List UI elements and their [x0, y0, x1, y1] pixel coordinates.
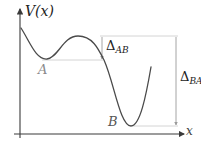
minimum-a-label: A: [38, 63, 47, 76]
delta-ab-label: ΔAB: [106, 37, 129, 53]
y-axis-label: V(x): [25, 4, 54, 18]
x-axis-label: x: [186, 125, 193, 137]
delta-ba-subscript: BA: [189, 76, 201, 86]
diagram-canvas: [0, 0, 201, 149]
delta-ab-symbol: Δ: [106, 38, 115, 53]
delta-ba-label: ΔBA: [180, 68, 201, 84]
delta-ba-symbol: Δ: [180, 69, 189, 84]
minimum-b-label: B: [108, 115, 118, 128]
delta-ab-subscript: AB: [115, 45, 128, 55]
potential-curve: [21, 28, 151, 126]
